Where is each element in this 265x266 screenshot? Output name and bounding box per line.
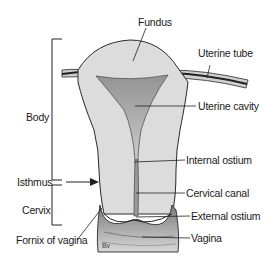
region-brackets [52, 39, 62, 225]
label-fornix-of-vagina: Fornix of vagina [16, 234, 88, 246]
label-external-ostium: External ostium [191, 210, 260, 222]
label-body: Body [26, 111, 49, 123]
label-fundus: Fundus [138, 16, 172, 28]
isthmus-arrow [66, 178, 99, 186]
cervical-canal [134, 160, 139, 216]
uterus-diagram: Fundus Uterine tube Uterine cavity Inter… [0, 0, 265, 266]
label-internal-ostium: Internal ostium [186, 154, 252, 166]
label-vagina: Vagina [191, 232, 222, 244]
label-uterine-cavity: Uterine cavity [198, 100, 259, 112]
label-isthmus: Isthmus [17, 176, 52, 188]
label-cervical-canal: Cervical canal [186, 187, 249, 199]
artist-signature: Bv [102, 240, 110, 252]
uterus-illustration [0, 0, 265, 266]
label-uterine-tube: Uterine tube [198, 47, 253, 59]
label-cervix: Cervix [22, 204, 51, 216]
